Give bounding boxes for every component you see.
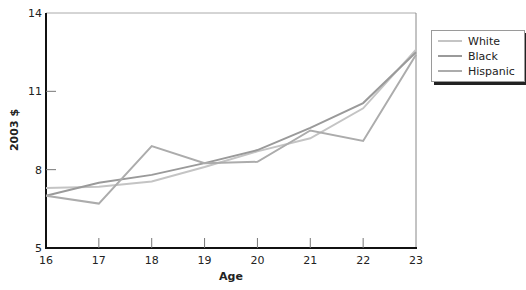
series-lines: [46, 50, 416, 204]
x-tick-label: 19: [198, 254, 212, 267]
series-line-hispanic: [46, 55, 416, 204]
legend-label-black: Black: [468, 50, 498, 63]
x-tick-label: 18: [145, 254, 159, 267]
legend-item-hispanic: Hispanic: [438, 64, 515, 78]
x-tick-label: 17: [92, 254, 106, 267]
legend-item-black: Black: [438, 49, 498, 63]
series-line-black: [46, 52, 416, 196]
x-tick-label: 23: [409, 254, 423, 267]
x-tick-label: 22: [356, 254, 370, 267]
x-ticks: 1617181920212223: [39, 238, 423, 267]
y-tick-label: 11: [28, 85, 42, 98]
legend-swatch-black: [438, 55, 462, 57]
legend-item-white: White: [438, 34, 500, 48]
x-tick-label: 20: [250, 254, 264, 267]
y-ticks: 581114: [28, 7, 56, 255]
x-axis-title: Age: [219, 270, 243, 283]
legend-label-hispanic: Hispanic: [468, 65, 515, 78]
legend-swatch-hispanic: [438, 70, 462, 72]
plot-frame: [45, 13, 417, 249]
legend-swatch-white: [438, 40, 462, 42]
legend: White Black Hispanic: [431, 30, 525, 82]
x-tick-label: 21: [303, 254, 317, 267]
x-tick-label: 16: [39, 254, 53, 267]
y-tick-label: 8: [35, 164, 42, 177]
series-line-white: [46, 50, 416, 188]
y-axis-title: 2003 $: [8, 109, 21, 151]
y-tick-label: 14: [28, 7, 42, 20]
legend-label-white: White: [468, 35, 500, 48]
